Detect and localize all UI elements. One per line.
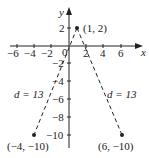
y-tick-label: −6 (52, 93, 64, 105)
distance-label-left: d = 13 (14, 88, 44, 100)
point-label: (−4, −10) (7, 140, 49, 153)
x-tick-label: 4 (100, 47, 106, 59)
y-tick-label: 2 (59, 22, 65, 34)
x-tick-label: 6 (118, 47, 124, 59)
y-axis-label: y (58, 6, 64, 18)
point-label: (1, 2) (83, 22, 107, 35)
distance-label-right: d = 13 (107, 88, 137, 100)
y-axis-arrow-icon (66, 7, 72, 15)
x-tick-label: −4 (24, 47, 36, 59)
point-6-neg10 (120, 133, 124, 137)
point-1-2 (75, 26, 79, 30)
y-tick-label: −2 (52, 57, 64, 69)
x-tick-label: −6 (7, 47, 19, 59)
x-axis-label: x (140, 46, 146, 58)
segment-right (77, 28, 122, 135)
point-neg4-neg10 (32, 133, 36, 137)
coordinate-plane: x y −6 −4 −2 2 4 6 0 2 −2 −4 −6 −8 −10 (… (0, 0, 149, 158)
x-tick-label: −2 (41, 47, 53, 59)
y-tick-label: −4 (52, 75, 64, 87)
y-tick-label: −8 (52, 111, 64, 123)
point-label: (6, −10) (98, 140, 134, 153)
